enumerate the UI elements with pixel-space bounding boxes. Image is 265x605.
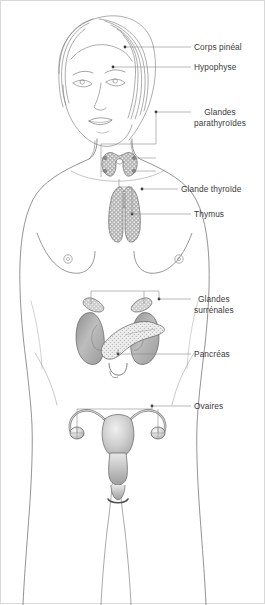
leader-dot-hypophyse <box>112 66 115 69</box>
leader-dot-glande-thyroide <box>141 188 144 191</box>
uterus-and-ovaries <box>70 410 165 502</box>
label-glande-thyroide[interactable]: Glande thyroïde <box>181 184 242 195</box>
adrenal-glands <box>83 298 152 312</box>
duodenum <box>109 363 127 375</box>
label-hypophyse[interactable]: Hypophyse <box>194 62 236 73</box>
label-glandes-parathyroides[interactable]: Glandes parathyroïdes <box>194 107 246 128</box>
label-corps-pineal[interactable]: Corps pinéal <box>194 42 242 53</box>
thyroid-gland <box>102 152 137 176</box>
label-pancreas[interactable]: Pancréas <box>194 349 230 360</box>
leader-dot-corps-pineal <box>124 46 127 49</box>
thymus-gland <box>109 187 141 242</box>
label-glandes-surrenales[interactable]: Glandes surrénales <box>194 294 234 315</box>
label-ovaires[interactable]: Ovaires <box>194 401 223 412</box>
label-thymus[interactable]: Thymus <box>194 209 224 220</box>
